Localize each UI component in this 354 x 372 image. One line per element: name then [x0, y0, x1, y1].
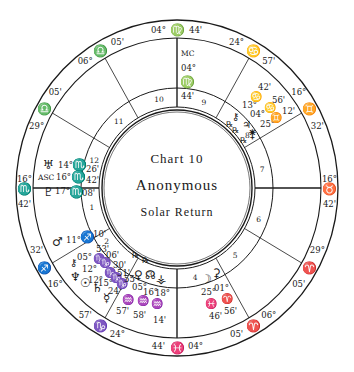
svg-text:16°: 16° — [17, 174, 32, 184]
chart-title-line2: Anonymous — [136, 177, 218, 193]
retrograde-mark: ℞ — [132, 251, 139, 260]
svg-text:05': 05' — [49, 87, 62, 97]
house-number-10: 10 — [154, 95, 164, 104]
svg-text:12°: 12° — [82, 264, 97, 274]
svg-text:♓: ♓ — [205, 297, 217, 310]
svg-text:16°: 16° — [48, 279, 63, 289]
svg-text:05': 05' — [111, 37, 124, 47]
svg-text:57': 57' — [262, 56, 275, 66]
cusp-label-6: ♈29°05' — [292, 245, 325, 289]
svg-text:♐: ♐ — [37, 261, 52, 275]
svg-text:ASC: ASC — [37, 173, 55, 182]
svg-text:♓: ♓ — [170, 341, 185, 355]
svg-text:56': 56' — [272, 95, 285, 105]
svg-text:♇: ♇ — [43, 185, 54, 199]
svg-text:♑: ♑ — [93, 319, 108, 333]
cusp-label-1: ♏16°42' — [17, 174, 32, 209]
retrograde-mark: ℞ — [240, 136, 247, 145]
svg-text:16°: 16° — [291, 87, 306, 97]
svg-text:MC: MC — [181, 49, 195, 58]
svg-text:57': 57' — [79, 310, 92, 320]
cusp-label-4: ♓04°44' — [152, 341, 203, 355]
svg-text:♈: ♈ — [221, 292, 233, 305]
svg-text:57': 57' — [116, 306, 129, 316]
svg-text:24°: 24° — [110, 329, 125, 339]
svg-text:05°: 05° — [77, 252, 92, 262]
house-number-6: 6 — [256, 215, 261, 224]
chart-title-line3: Solar Return — [141, 205, 214, 219]
retrograde-mark: ℞ — [232, 126, 239, 135]
svg-text:29°: 29° — [310, 245, 325, 255]
house-number-5: 5 — [233, 251, 238, 260]
svg-text:08': 08' — [82, 188, 95, 198]
svg-text:04°: 04° — [151, 25, 166, 35]
cusp-line-11 — [105, 58, 138, 118]
cusp-label-10: ♍04°44' — [151, 23, 202, 37]
svg-text:04°: 04° — [181, 63, 196, 73]
svg-text:01°: 01° — [214, 283, 229, 293]
svg-text:04°: 04° — [250, 109, 265, 119]
cusp-line-12 — [52, 113, 109, 148]
svg-text:14°: 14° — [58, 160, 73, 170]
svg-text:44': 44' — [189, 25, 202, 35]
svg-text:⚶: ⚶ — [156, 272, 166, 286]
cusp-line-6 — [245, 229, 302, 264]
svg-text:♊: ♊ — [302, 102, 317, 116]
svg-text:42': 42' — [323, 199, 336, 209]
house-number-7: 7 — [260, 165, 265, 174]
svg-text:46': 46' — [209, 311, 222, 321]
chart-wheel: Chart 10 Anonymous Solar Return 12345678… — [0, 0, 354, 372]
svg-text:♋: ♋ — [246, 44, 261, 58]
svg-text:18°: 18° — [155, 288, 170, 298]
svg-text:42': 42' — [86, 175, 99, 185]
svg-text:26': 26' — [86, 164, 99, 174]
svg-text:11°: 11° — [66, 235, 81, 245]
svg-text:♎: ♎ — [93, 44, 108, 58]
svg-text:⚳: ⚳ — [212, 266, 221, 280]
svg-text:16°: 16° — [322, 174, 337, 184]
house-number-1: 1 — [90, 203, 95, 212]
chart-title-line1: Chart 10 — [150, 151, 203, 166]
retrograde-mark: ℞ — [142, 256, 149, 265]
svg-text:10': 10' — [93, 229, 106, 239]
svg-text:32': 32' — [311, 121, 324, 131]
svg-text:56': 56' — [224, 306, 237, 316]
svg-text:32': 32' — [30, 245, 43, 255]
house-number-4: 4 — [193, 273, 198, 282]
svg-text:♈: ♈ — [246, 319, 261, 333]
planet-pluto: ♇ 17° ♏ 08' — [43, 185, 95, 199]
svg-text:12': 12' — [282, 106, 295, 116]
svg-text:44': 44' — [181, 91, 194, 101]
svg-text:58': 58' — [133, 310, 146, 320]
svg-text:♂: ♂ — [52, 235, 63, 249]
svg-text:♒: ♒ — [151, 297, 163, 310]
svg-text:24°: 24° — [229, 37, 244, 47]
svg-text:29°: 29° — [29, 121, 44, 131]
svg-text:42': 42' — [258, 82, 271, 92]
svg-text:♈: ♈ — [302, 261, 317, 275]
svg-text:44': 44' — [152, 341, 165, 351]
svg-text:♎: ♎ — [37, 102, 52, 116]
svg-text:16°: 16° — [56, 172, 71, 182]
svg-text:♅: ♅ — [43, 158, 54, 172]
svg-text:42': 42' — [18, 199, 31, 209]
svg-text:♍: ♍ — [170, 23, 185, 37]
svg-text:♒: ♒ — [137, 294, 149, 307]
svg-text:06°: 06° — [261, 310, 276, 320]
svg-text:04°: 04° — [188, 341, 203, 351]
house-number-9: 9 — [201, 98, 206, 107]
svg-text:⚷: ⚷ — [232, 111, 239, 122]
svg-text:☊: ☊ — [145, 268, 156, 282]
svg-text:♀: ♀ — [134, 268, 143, 282]
svg-text:06': 06' — [106, 250, 119, 260]
svg-text:14': 14' — [153, 315, 166, 325]
cusp-label-7: ♉16°42' — [322, 174, 337, 209]
svg-text:♏: ♏ — [71, 170, 86, 184]
svg-text:05': 05' — [292, 279, 305, 289]
svg-text:17°: 17° — [55, 186, 70, 196]
cusp-label-12: ♎29°05' — [29, 87, 62, 131]
svg-text:05': 05' — [230, 329, 243, 339]
svg-text:♍: ♍ — [180, 75, 195, 89]
svg-text:♒: ♒ — [122, 293, 134, 306]
house-number-11: 11 — [114, 117, 124, 126]
